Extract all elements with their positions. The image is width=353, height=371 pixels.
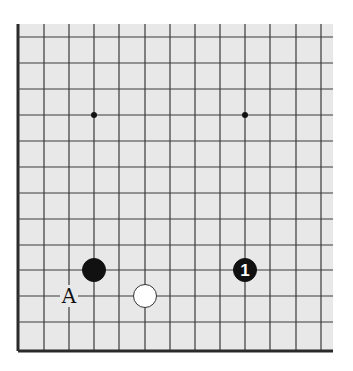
point-label: A xyxy=(61,284,77,308)
white-stone[interactable] xyxy=(134,285,157,308)
stone-icon xyxy=(134,285,157,308)
move-number: 1 xyxy=(240,261,249,280)
stone-icon xyxy=(83,259,106,282)
markers-layer: A xyxy=(60,284,78,308)
star-point-icon xyxy=(242,112,248,118)
black-stone[interactable]: 1 xyxy=(234,259,257,282)
go-board[interactable]: 1 A xyxy=(0,0,353,371)
star-point-icon xyxy=(91,112,97,118)
black-stone[interactable] xyxy=(83,259,106,282)
